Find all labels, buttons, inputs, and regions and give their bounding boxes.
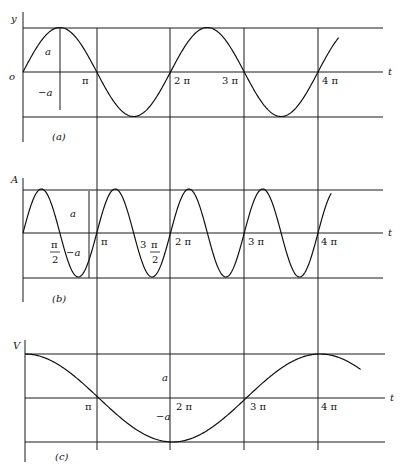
svg-text:2: 2 — [152, 254, 158, 265]
tick-4pi-b: 4 π — [321, 236, 338, 247]
tick-3pi-b: 3 π — [248, 236, 265, 247]
tick-pi-c: π — [85, 401, 92, 412]
svg-text:2: 2 — [52, 254, 58, 265]
y-axis-label-b: A — [10, 174, 18, 185]
tick-pi-a: π — [82, 75, 89, 86]
t-axis-label-b: t — [388, 227, 393, 238]
panel-caption-c: (c) — [55, 451, 69, 462]
svg-text:3: 3 — [140, 239, 146, 250]
y-axis-label-c: V — [13, 340, 22, 351]
waveform-figure: y t o a −a π 2 π 3 π 4 π (a) A t a −a π … — [0, 0, 401, 470]
tick-half-pi-b: π 2 — [50, 239, 60, 265]
tick-4pi-c: 4 π — [321, 401, 338, 412]
amp-pos-label-c: a — [162, 372, 168, 383]
amp-pos-label-a: a — [45, 46, 51, 57]
tick-4pi-a: 4 π — [322, 75, 339, 86]
amp-pos-label-b: a — [70, 208, 76, 219]
tick-2pi-c: 2 π — [176, 401, 193, 412]
panel-caption-b: (b) — [52, 293, 66, 304]
tick-2pi-b: 2 π — [175, 236, 192, 247]
panel-caption-a: (a) — [52, 131, 66, 142]
origin-label-a: o — [9, 71, 15, 82]
y-axis-label-a: y — [10, 13, 17, 24]
amp-neg-label-a: −a — [38, 87, 52, 98]
svg-text:π: π — [51, 239, 58, 250]
t-axis-label-c: t — [390, 392, 395, 403]
svg-text:π: π — [151, 239, 158, 250]
amp-neg-label-b: −a — [66, 247, 80, 258]
amp-neg-label-c: −a — [156, 411, 170, 422]
tick-3pi-a: 3 π — [222, 75, 239, 86]
tick-three-half-pi-b: 3 π 2 — [140, 239, 160, 265]
tick-3pi-c: 3 π — [250, 401, 267, 412]
t-axis-label-a: t — [388, 66, 393, 77]
tick-2pi-a: 2 π — [174, 75, 191, 86]
tick-pi-b: π — [101, 236, 108, 247]
